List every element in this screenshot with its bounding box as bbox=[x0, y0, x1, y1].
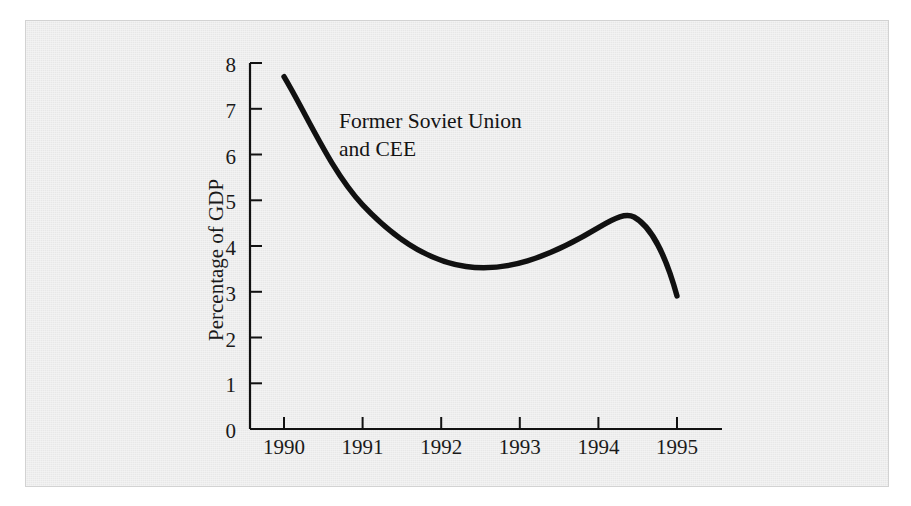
x-tick-label-1992: 1992 bbox=[411, 437, 471, 458]
y-tick-label-7: 7 bbox=[212, 101, 236, 122]
y-axis-ticks bbox=[250, 63, 262, 429]
y-tick-label-1: 1 bbox=[212, 375, 236, 396]
figure-page: 0 1 2 3 4 5 6 7 8 1990 1991 1992 1993 19… bbox=[0, 0, 911, 506]
x-tick-label-1993: 1993 bbox=[490, 437, 550, 458]
y-tick-label-0: 0 bbox=[212, 421, 236, 442]
figure-panel: 0 1 2 3 4 5 6 7 8 1990 1991 1992 1993 19… bbox=[25, 20, 889, 487]
x-tick-label-1995: 1995 bbox=[647, 437, 707, 458]
y-axis-title: Percentage of GDP bbox=[204, 179, 229, 341]
x-axis-ticks bbox=[284, 417, 677, 429]
line-chart-plot bbox=[26, 21, 890, 488]
x-tick-label-1990: 1990 bbox=[254, 437, 314, 458]
y-tick-label-8: 8 bbox=[212, 55, 236, 76]
x-tick-label-1994: 1994 bbox=[568, 437, 628, 458]
series-annotation-former-soviet-union-and-cee: Former Soviet Union and CEE bbox=[339, 107, 522, 164]
x-tick-label-1991: 1991 bbox=[333, 437, 393, 458]
y-tick-label-6: 6 bbox=[212, 147, 236, 168]
